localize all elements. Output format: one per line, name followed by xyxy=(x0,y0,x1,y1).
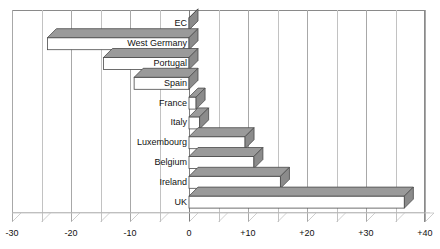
gridline-10 xyxy=(248,10,249,222)
tick-label--20: -20 xyxy=(51,228,91,239)
gridline-0 xyxy=(189,10,190,222)
gridline-15 xyxy=(278,10,279,222)
bar-chart: ECWest GermanyPortugalSpainFranceItalyLu… xyxy=(0,0,440,249)
category-label-ireland: Ireland xyxy=(37,177,187,187)
category-label-portugal: Portugal xyxy=(37,58,187,68)
category-label-uk: UK xyxy=(37,197,187,207)
axis-base-plane xyxy=(12,212,425,223)
tick-label--30: -30 xyxy=(0,228,32,239)
gridline--30 xyxy=(12,10,13,222)
tick-label--10: -10 xyxy=(110,228,150,239)
tick-label-30: +30 xyxy=(346,228,386,239)
category-label-ec: EC xyxy=(37,18,187,28)
tick-label-40: +40 xyxy=(405,228,440,239)
gridline-40 xyxy=(425,10,426,222)
category-label-spain: Spain xyxy=(37,78,187,88)
gridline-35 xyxy=(396,10,397,222)
gridline-5 xyxy=(219,10,220,222)
category-label-luxembourg: Luxembourg xyxy=(37,137,187,147)
tick-label-0: 0 xyxy=(169,228,209,239)
gridline-30 xyxy=(366,10,367,222)
tick-label-20: +20 xyxy=(287,228,327,239)
gridline-20 xyxy=(307,10,308,222)
tick-label-10: +10 xyxy=(228,228,268,239)
category-label-france: France xyxy=(37,98,187,108)
category-label-west-germany: West Germany xyxy=(37,38,187,48)
gridline-25 xyxy=(337,10,338,222)
category-label-belgium: Belgium xyxy=(37,157,187,167)
category-label-italy: Italy xyxy=(37,117,187,127)
